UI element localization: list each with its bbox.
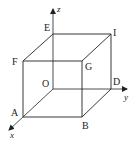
vertex-label-G: G (85, 62, 92, 72)
edge-BD (82, 89, 111, 117)
cube-diagram: E I F G O D A B z y x (0, 0, 132, 146)
vertex-label-E: E (44, 23, 50, 33)
vertex-label-B: B (82, 121, 89, 131)
vertex-label-O: O (42, 79, 49, 89)
edge-FE (23, 34, 53, 61)
vertex-label-D: D (113, 77, 120, 87)
axis-label-z: z (57, 5, 61, 14)
cube-drawing (0, 0, 132, 146)
vertex-label-I: I (113, 28, 116, 38)
edge-IG (82, 34, 111, 61)
axis-label-x: x (10, 131, 14, 140)
axis-label-y: y (124, 93, 128, 102)
vertex-label-F: F (12, 57, 18, 67)
vertex-label-A: A (11, 108, 18, 118)
